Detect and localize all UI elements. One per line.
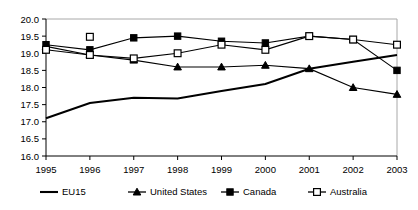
y-tick-label: 16.0 <box>21 151 40 162</box>
y-tick-label: 20.0 <box>21 14 40 25</box>
legend-item-united-states: United States <box>128 186 207 197</box>
series-australia <box>43 33 401 62</box>
data-point-marker <box>174 50 181 57</box>
annotation-marker <box>86 33 93 40</box>
data-point-marker <box>218 41 225 48</box>
y-tick-labels: 20.0 19.5 19.0 18.5 18.0 17.5 17.0 16.5 … <box>21 14 40 162</box>
data-point-marker <box>131 35 137 41</box>
legend-label: Australia <box>330 186 368 197</box>
y-tick-label: 16.5 <box>21 133 40 144</box>
data-point-marker <box>43 46 50 53</box>
series-united-states <box>42 43 401 98</box>
chart-legend: EU15United StatesCanadaAustralia <box>40 186 368 197</box>
legend-label: Canada <box>243 186 277 197</box>
data-point-marker <box>86 52 93 59</box>
x-tick-label: 1999 <box>211 164 232 175</box>
data-point-marker <box>349 84 357 91</box>
legend-item-australia: Australia <box>308 186 368 197</box>
y-tick-label: 18.0 <box>21 82 40 93</box>
data-series-layer <box>42 33 401 119</box>
x-tick-labels: 199519961997199819992000200120022003 <box>35 164 407 175</box>
legend-label: United States <box>150 186 207 197</box>
data-point-marker <box>350 36 357 43</box>
chart-canvas: 20.0 19.5 19.0 18.5 18.0 17.5 17.0 16.5 … <box>0 0 418 210</box>
legend-marker <box>227 189 233 195</box>
data-point-marker <box>306 33 313 40</box>
x-tick-label: 1998 <box>167 164 188 175</box>
x-tick-label: 1995 <box>35 164 56 175</box>
y-tick-label: 17.0 <box>21 116 40 127</box>
legend-item-eu15: EU15 <box>40 186 86 197</box>
data-point-marker <box>394 67 400 73</box>
y-tick-marks <box>42 19 46 156</box>
data-point-marker <box>130 55 137 62</box>
x-tick-label: 2001 <box>299 164 320 175</box>
y-tick-label: 18.5 <box>21 65 40 76</box>
legend-label: EU15 <box>62 186 86 197</box>
x-tick-label: 1996 <box>79 164 100 175</box>
line-chart: 20.0 19.5 19.0 18.5 18.0 17.5 17.0 16.5 … <box>0 0 418 210</box>
x-tick-label: 2000 <box>255 164 276 175</box>
data-point-marker <box>262 46 269 53</box>
legend-marker <box>314 189 321 196</box>
data-point-marker <box>174 33 180 39</box>
x-tick-label: 1997 <box>123 164 144 175</box>
x-tick-label: 2002 <box>343 164 364 175</box>
data-point-marker <box>394 41 401 48</box>
x-tick-marks <box>46 156 397 160</box>
x-tick-label: 2003 <box>386 164 407 175</box>
y-tick-label: 19.5 <box>21 31 40 42</box>
data-point-marker <box>262 40 268 46</box>
annotation-marker <box>86 33 93 40</box>
y-tick-label: 19.0 <box>21 48 40 59</box>
y-tick-label: 17.5 <box>21 99 40 110</box>
legend-item-canada: Canada <box>221 186 277 197</box>
